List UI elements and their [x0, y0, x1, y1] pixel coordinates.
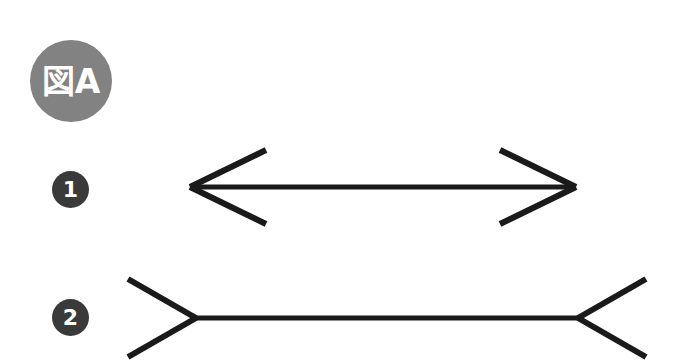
arrow-1-fin-left-lower [190, 187, 266, 224]
arrow-2-fin-left-upper [128, 279, 196, 318]
arrow-2-fin-right-lower [578, 318, 646, 357]
figure-canvas: 図A 1 2 [0, 0, 674, 364]
arrow-2-fin-right-upper [578, 279, 646, 318]
arrow-2-fin-left-lower [128, 318, 196, 357]
muller-lyer-drawing [0, 0, 674, 364]
arrow-1-fin-right-lower [500, 187, 576, 224]
outward-fins-arrow [128, 279, 646, 357]
arrow-1-fin-left-upper [190, 150, 266, 187]
arrow-1-fin-right-upper [500, 150, 576, 187]
inward-fins-arrow [190, 150, 576, 224]
